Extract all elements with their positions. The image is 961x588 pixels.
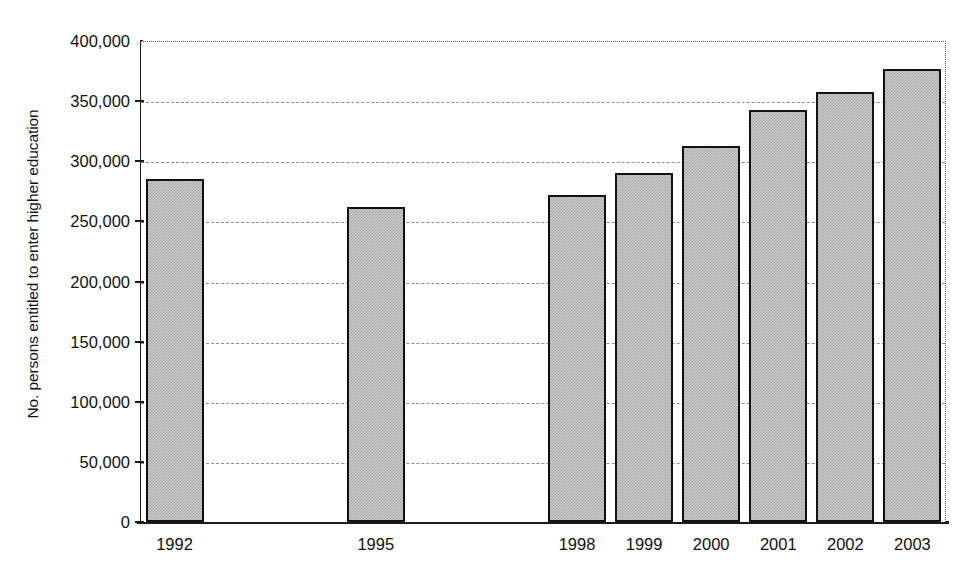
y-tick-label-250000: 250,000: [22, 213, 130, 230]
x-axis-tick-labels: 19921995199819992000200120022003: [0, 535, 961, 565]
y-tickmark-300000: [135, 160, 144, 162]
y-tick-label-0: 0: [22, 514, 130, 531]
y-tickmark-250000: [135, 220, 144, 222]
y-tickmark-200000: [135, 281, 144, 283]
bar-2002: [816, 92, 874, 522]
y-tick-label-300000: 300,000: [22, 153, 130, 170]
y-tick-label-150000: 150,000: [22, 334, 130, 351]
x-tick-label-1995: 1995: [336, 535, 416, 553]
bar-1995: [347, 207, 405, 522]
plot-area: [141, 41, 946, 522]
y-tick-label-200000: 200,000: [22, 274, 130, 291]
bar-1992: [146, 179, 204, 522]
y-tickmark-100000: [135, 401, 144, 403]
x-tick-label-1992: 1992: [135, 535, 215, 553]
y-tick-label-50000: 50,000: [22, 454, 130, 471]
y-tickmark-50000: [135, 461, 144, 463]
y-tick-label-350000: 350,000: [22, 93, 130, 110]
y-tickmark-0: [135, 521, 144, 523]
bar-2003: [883, 69, 941, 522]
y-tick-label-400000: 400,000: [22, 33, 130, 50]
bar-1998: [548, 195, 606, 522]
x-tick-label-2003: 2003: [872, 535, 952, 553]
bar-2001: [749, 110, 807, 522]
y-tick-label-100000: 100,000: [22, 394, 130, 411]
y-tickmark-150000: [135, 341, 144, 343]
y-tickmark-350000: [135, 100, 144, 102]
y-axis-tick-labels: 400,000350,000300,000250,000200,000150,0…: [22, 0, 130, 588]
bar-1999: [615, 173, 673, 522]
bar-chart-figure: No. persons entitled to enter higher edu…: [0, 0, 961, 588]
bar-2000: [682, 146, 740, 522]
